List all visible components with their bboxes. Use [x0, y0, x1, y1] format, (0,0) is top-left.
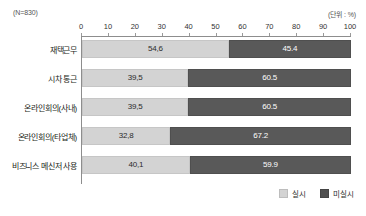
category-label: 시차 통근	[48, 73, 77, 84]
chart-figure: (N=830) (단위 : %) 0102030405060708090100 …	[0, 0, 366, 216]
bar-segment-misilsi: 59.9	[190, 156, 351, 174]
bar-value-label: 45.4	[283, 45, 298, 53]
bar-value-label: 54,6	[148, 45, 163, 53]
legend-swatch-icon	[320, 189, 329, 198]
legend-item[interactable]: 실시	[279, 188, 306, 199]
plot-area: 재택근무54,645.4시차 통근39,560.5온라인회의(사내)39,560…	[0, 37, 366, 185]
x-tick-label: 70	[265, 22, 273, 31]
bar-segment-misilsi: 45.4	[229, 40, 351, 58]
bar-value-label: 59.9	[263, 161, 278, 169]
bar-value-label: 67.2	[253, 132, 268, 140]
category-label: 온라인회의(사내)	[24, 102, 77, 113]
x-axis-tick-labels: 0102030405060708090100	[81, 22, 350, 33]
bar-value-label: 40,1	[129, 161, 144, 169]
chart-row: 재택근무54,645.4	[0, 37, 366, 66]
category-label: 비즈니스 메신저 사용	[12, 160, 77, 171]
x-tick-label: 60	[238, 22, 246, 31]
bar-segment-misilsi: 60.5	[188, 98, 351, 116]
stacked-bar: 32,867.2	[82, 127, 351, 145]
bar-segment-misilsi: 67.2	[170, 127, 351, 145]
legend: 실시미실시	[279, 188, 354, 199]
bar-segment-silsi: 32,8	[82, 127, 170, 145]
unit-note: (단위 : %)	[328, 9, 356, 19]
bar-value-label: 60.5	[262, 74, 277, 82]
bar-value-label: 39,5	[128, 74, 143, 82]
x-tick-label: 80	[292, 22, 300, 31]
legend-swatch-icon	[279, 189, 288, 198]
bar-segment-silsi: 54,6	[82, 40, 229, 58]
x-tick-label: 10	[104, 22, 112, 31]
legend-item[interactable]: 미실시	[320, 188, 354, 199]
x-tick-label: 50	[211, 22, 219, 31]
sample-size-note: (N=830)	[13, 9, 38, 16]
stacked-bar: 40,159.9	[82, 156, 351, 174]
x-tick-label: 0	[79, 22, 83, 31]
x-tick-label: 90	[319, 22, 327, 31]
legend-label: 실시	[292, 188, 306, 199]
chart-row: 시차 통근39,560.5	[0, 66, 366, 95]
category-label: 온라인회의(타업체)	[18, 131, 77, 142]
x-tick-label: 20	[131, 22, 139, 31]
stacked-bar: 39,560.5	[82, 98, 351, 116]
bar-segment-silsi: 40,1	[82, 156, 190, 174]
chart-row: 온라인회의(사내)39,560.5	[0, 95, 366, 124]
legend-label: 미실시	[333, 188, 354, 199]
stacked-bar: 54,645.4	[82, 40, 351, 58]
bar-value-label: 39,5	[128, 103, 143, 111]
stacked-bar: 39,560.5	[82, 69, 351, 87]
footnote-strip	[10, 206, 175, 216]
bar-segment-silsi: 39,5	[82, 98, 188, 116]
bar-segment-misilsi: 60.5	[188, 69, 351, 87]
bar-value-label: 60.5	[262, 103, 277, 111]
x-tick-label: 40	[184, 22, 192, 31]
bar-segment-silsi: 39,5	[82, 69, 188, 87]
bar-value-label: 32,8	[119, 132, 134, 140]
category-label: 재택근무	[50, 44, 77, 55]
chart-row: 온라인회의(타업체)32,867.2	[0, 124, 366, 153]
chart-row: 비즈니스 메신저 사용40,159.9	[0, 153, 366, 182]
x-tick-label: 100	[344, 22, 357, 31]
x-tick-label: 30	[158, 22, 166, 31]
